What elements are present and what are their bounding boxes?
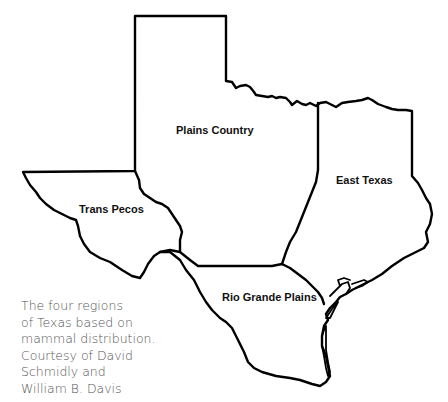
caption-line: William B. Davis <box>21 381 161 398</box>
region-label-plains-country: Plains Country <box>176 124 254 136</box>
region-label-trans-pecos: Trans Pecos <box>79 203 144 215</box>
region-label-rio-grande-plains: Rio Grande Plains <box>222 291 317 303</box>
caption-line: Schmidly and <box>21 364 161 381</box>
map-caption: The four regions of Texas based on mamma… <box>21 298 161 397</box>
border-plains-east-texas <box>282 103 318 264</box>
caption-line: of Texas based on <box>21 315 161 332</box>
padre-island <box>322 326 330 376</box>
region-label-east-texas: East Texas <box>336 174 393 186</box>
caption-line: The four regions <box>21 298 161 315</box>
caption-line: Courtesy of David <box>21 348 161 365</box>
caption-line: mammal distribution. <box>21 331 161 348</box>
